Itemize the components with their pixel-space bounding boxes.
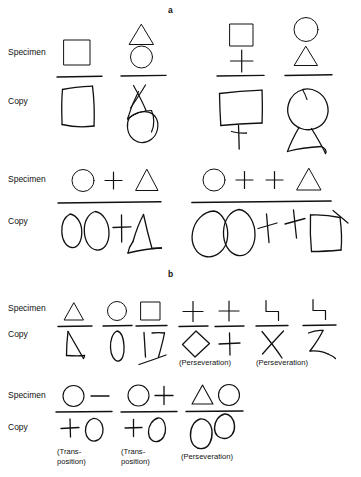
specimen-triangle-circle-c3 [192,385,240,406]
divider-line-b1-1 [58,326,92,327]
row-label-specimen-a2: Specimen [8,174,46,184]
specimen-triangle-b1 [65,303,84,320]
divider-line-b1-3 [136,326,167,327]
error-note-transposition-2-line1: (Trans- [121,447,145,457]
copy-x-cross-b6 [262,331,284,358]
panel-letter-b: b [168,269,173,279]
specimen-circle-triangle-4 [294,18,318,66]
error-note-transposition-1-line2: position) [57,457,86,467]
divider-line-a1-3 [217,75,264,76]
copy-plus-b5 [219,333,240,355]
row-label-specimen-b2: Specimen [8,390,46,400]
divider-line-b2-2 [121,412,177,413]
specimen-triangle-circle-2 [130,25,154,69]
copy-broken-square-b3 [139,333,166,365]
row-label-copy-b2: Copy [8,422,28,432]
specimen-square-b3 [141,302,160,320]
divider-line-a1-1 [57,76,102,77]
specimen-circle-plus-triangle-5 [72,170,158,192]
divider-line-b1-2 [103,326,132,327]
row-label-copy-a2: Copy [8,216,28,226]
panel-letter-a: a [168,5,173,15]
specimen-circle-plus-plus-triangle-6 [203,169,321,192]
divider-line-a2-2 [192,201,331,203]
divider-line-b1-6 [256,326,288,327]
specimen-circle-b2 [108,302,127,321]
error-note-transposition-2-line2: position) [121,457,150,467]
divider-line-a1-2 [121,75,166,76]
copy-narrow-oval-b2 [110,331,124,361]
copy-z-shape-b7 [309,330,336,358]
figure-root: a b Specimen Copy Specimen Copy Specimen… [0,0,361,477]
copy-plus-circle-c1 [61,418,103,441]
divider-line-b2-3 [186,411,243,412]
drawing-canvas [0,0,361,477]
specimen-square-plus-3 [230,24,253,72]
error-note-perseveration-b1: (Perseveration) [179,358,231,368]
copy-circle-body-triangle-4 [288,89,329,154]
specimen-circle-dash-c1 [63,386,109,407]
specimen-step-bracket-b7 [313,300,326,320]
divider-line-b1-7 [303,325,336,326]
specimen-plus-b4 [183,302,203,322]
divider-line-b2-1 [56,412,112,413]
specimen-square-1 [64,40,90,65]
copy-diamond-b4 [183,331,210,357]
row-label-copy-b1: Copy [8,329,28,339]
copy-square-stem-plus-3 [220,90,263,149]
error-note-transposition-1-line1: (Trans- [57,447,81,457]
specimen-circle-plus-c2 [128,385,173,406]
row-label-specimen-b1: Specimen [8,303,46,313]
specimen-plus-b5 [219,301,239,321]
copy-open-triangle-b1 [67,332,85,359]
copy-plus-oval-c2 [125,418,166,442]
copy-ovals-crosses-quad-6 [192,210,348,257]
copy-scribble-triangle-circle-2 [127,85,157,143]
copy-two-ovals-c3 [190,414,234,449]
row-label-copy-a1: Copy [8,96,28,106]
copy-bowed-square-1 [62,86,95,127]
error-note-perseveration-b3: (Perseveration) [181,452,233,462]
copy-ovals-plus-triangle-5 [62,212,162,254]
specimen-step-bracket-b6 [266,301,279,321]
error-note-perseveration-b2: (Perseveration) [256,358,308,368]
row-label-specimen-a1: Specimen [8,47,46,57]
divider-line-a1-4 [285,75,332,76]
divider-line-a2-1 [58,202,161,203]
divider-line-b1-4 [179,326,208,327]
divider-line-b1-5 [215,326,244,327]
